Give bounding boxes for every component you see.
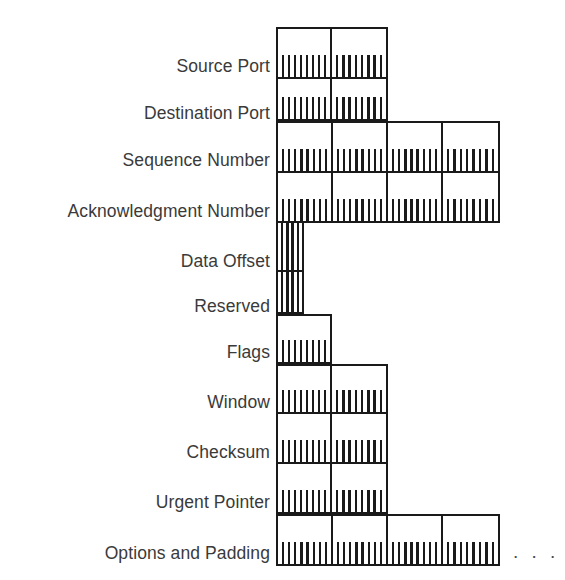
bit-tick: [348, 55, 350, 77]
bit-tick: [348, 490, 350, 512]
bit-tick: [324, 440, 326, 462]
field-label: Options and Padding: [2, 545, 270, 563]
bit-tick-group: [443, 199, 498, 221]
bit-tick: [282, 542, 284, 564]
bit-tick: [337, 149, 339, 171]
bit-tick: [282, 440, 284, 462]
field-label: Checksum: [2, 444, 270, 462]
bit-tick-group: [278, 97, 330, 119]
bit-tick: [479, 542, 481, 564]
bit-tick: [313, 199, 315, 221]
bit-tick: [306, 340, 308, 362]
bit-tick: [294, 390, 296, 412]
byte-cell: [388, 173, 443, 221]
bit-tick: [374, 542, 376, 564]
bit-tick: [288, 542, 290, 564]
bit-tick: [348, 390, 350, 412]
byte-cell: [332, 366, 386, 412]
header-field-row: [276, 364, 388, 414]
bit-tick: [368, 199, 370, 221]
bit-tick: [325, 542, 327, 564]
bit-tick: [466, 149, 468, 171]
bit-tick: [435, 199, 437, 221]
bit-tick: [288, 340, 290, 362]
field-label-column: Source PortDestination PortSequence Numb…: [0, 0, 270, 580]
bit-tick: [373, 97, 375, 119]
bit-tick: [479, 199, 481, 221]
bit-tick-group: [388, 199, 441, 221]
bit-tick: [435, 149, 437, 171]
cell-group: [278, 516, 498, 564]
header-field-row: [276, 414, 388, 464]
bit-tick: [479, 149, 481, 171]
bit-tick: [337, 199, 339, 221]
bit-tick: [312, 490, 314, 512]
bit-tick: [373, 490, 375, 512]
bit-tick: [492, 149, 494, 171]
bit-tick: [380, 149, 382, 171]
bit-tick: [466, 542, 468, 564]
bit-tick: [288, 440, 290, 462]
bit-tick: [361, 490, 363, 512]
bit-tick: [325, 199, 327, 221]
bit-tick: [324, 340, 326, 362]
byte-cell: [443, 516, 498, 564]
field-label: Reserved: [2, 298, 270, 316]
header-field-row: [276, 79, 388, 121]
bit-tick: [319, 199, 321, 221]
bit-tick: [313, 149, 315, 171]
bit-tick: [306, 490, 308, 512]
bit-tick: [282, 340, 284, 362]
bit-tick: [300, 390, 302, 412]
bit-tick: [282, 390, 284, 412]
byte-cell: [332, 29, 386, 77]
bit-tick: [367, 490, 369, 512]
bit-tick: [398, 542, 400, 564]
bit-tick: [288, 199, 290, 221]
bit-tick: [312, 390, 314, 412]
bit-tick: [291, 272, 293, 312]
bit-tick: [312, 440, 314, 462]
bit-tick-group: [278, 149, 331, 171]
continuation-ellipsis: . . .: [513, 542, 559, 561]
byte-cell: [278, 223, 302, 270]
cell-group: [278, 316, 330, 362]
byte-cell: [443, 173, 498, 221]
cell-group: [278, 414, 386, 462]
bit-tick: [392, 542, 394, 564]
bit-tick: [355, 440, 357, 462]
bit-tick-group: [332, 490, 386, 512]
bit-tick: [423, 149, 425, 171]
byte-cell: [443, 123, 498, 171]
bit-tick: [300, 97, 302, 119]
bit-tick: [318, 55, 320, 77]
bit-tick: [318, 97, 320, 119]
bit-tick: [343, 199, 345, 221]
bit-tick: [349, 199, 351, 221]
bit-tick: [404, 149, 406, 171]
bit-tick: [429, 542, 431, 564]
bit-tick: [324, 97, 326, 119]
bit-tick: [300, 490, 302, 512]
bit-tick: [343, 542, 345, 564]
bit-tick: [355, 490, 357, 512]
bit-tick: [294, 97, 296, 119]
byte-cell: [278, 272, 302, 312]
bit-tick: [318, 490, 320, 512]
bit-tick: [288, 490, 290, 512]
bit-tick: [324, 55, 326, 77]
bit-tick: [306, 55, 308, 77]
header-field-row: [276, 27, 388, 79]
bit-tick: [410, 199, 412, 221]
bit-tick: [300, 340, 302, 362]
byte-cell: [333, 123, 388, 171]
header-field-row: [276, 121, 500, 173]
bit-tick: [337, 542, 339, 564]
bit-tick: [348, 440, 350, 462]
field-label: Sequence Number: [2, 152, 270, 170]
bit-tick: [355, 390, 357, 412]
bit-tick: [361, 149, 363, 171]
tcp-header-diagram: Source PortDestination PortSequence Numb…: [0, 0, 565, 580]
byte-cell: [278, 29, 332, 77]
bit-tick: [410, 542, 412, 564]
